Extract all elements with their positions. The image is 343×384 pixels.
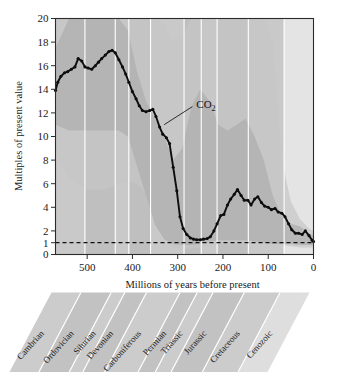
data-point (297, 232, 300, 235)
y-tick-label: 4 (43, 201, 49, 213)
data-point (97, 61, 100, 64)
x-tick-label: 0 (311, 261, 317, 273)
data-point (73, 65, 76, 68)
data-point (138, 104, 141, 107)
data-point (301, 233, 304, 236)
data-point (182, 227, 185, 230)
data-point (206, 237, 209, 240)
data-point (127, 81, 130, 84)
data-point (100, 57, 103, 60)
x-axis-title: Millions of years before present (125, 279, 259, 290)
data-point (202, 238, 205, 241)
data-point (277, 210, 280, 213)
y-tick-label: 10 (38, 130, 50, 142)
data-point (83, 65, 86, 68)
data-point (158, 126, 161, 129)
data-point (172, 166, 175, 169)
data-point (233, 193, 236, 196)
y-tick-label: 1 (43, 237, 49, 249)
data-point (226, 203, 229, 206)
data-point (283, 215, 286, 218)
data-point (80, 59, 83, 62)
data-point (219, 214, 222, 217)
data-point (121, 65, 124, 68)
data-point (273, 207, 276, 210)
data-point (66, 70, 69, 73)
data-point (294, 232, 297, 235)
data-point (240, 194, 243, 197)
data-point (246, 199, 249, 202)
x-tick-label: 300 (169, 261, 186, 273)
data-point (267, 206, 270, 209)
data-point (195, 238, 198, 241)
y-axis-title: Multiples of present value (13, 81, 24, 191)
data-point (189, 236, 192, 239)
data-point (104, 54, 107, 57)
data-point (236, 188, 239, 191)
data-point (168, 142, 171, 145)
data-point (161, 133, 164, 136)
data-point (199, 238, 202, 241)
data-point (107, 50, 110, 53)
data-point (260, 201, 263, 204)
data-point (165, 136, 168, 139)
data-point (243, 199, 246, 202)
data-point (229, 197, 232, 200)
data-point (94, 64, 97, 67)
data-point (87, 67, 90, 70)
y-tick-label: 6 (43, 178, 49, 190)
y-tick-label: 18 (38, 36, 50, 48)
data-point (290, 228, 293, 231)
y-tick-label: 20 (38, 12, 50, 24)
data-point (56, 81, 59, 84)
data-point (154, 115, 157, 118)
plot-area: CO2 (54, 19, 315, 255)
y-tick-label: 14 (38, 83, 50, 95)
data-point (175, 189, 178, 192)
y-tick-label: 16 (38, 60, 50, 72)
data-point (192, 238, 195, 241)
x-tick-label: 100 (260, 261, 277, 273)
data-point (178, 215, 181, 218)
data-point (59, 75, 62, 78)
data-point (90, 68, 93, 71)
data-point (131, 90, 134, 93)
data-point (287, 222, 290, 225)
data-point (270, 208, 273, 211)
y-tick-label: 0 (43, 248, 49, 260)
data-point (304, 229, 307, 232)
data-point (280, 212, 283, 215)
data-point (63, 71, 66, 74)
chart-canvas: CO2 012468101214161820 5004003002001000 … (0, 0, 343, 384)
x-tick-label: 400 (124, 261, 141, 273)
y-tick-label: 12 (38, 107, 49, 119)
y-tick-label: 2 (43, 225, 49, 237)
data-point (148, 109, 151, 112)
data-point (114, 51, 117, 54)
data-point (185, 233, 188, 236)
data-point (151, 108, 154, 111)
data-point (209, 235, 212, 238)
data-point (249, 203, 252, 206)
data-point (77, 57, 80, 60)
data-point (70, 68, 73, 71)
data-point (144, 110, 147, 113)
data-point (124, 72, 127, 75)
data-point (135, 97, 138, 100)
x-tick-label: 500 (79, 261, 96, 273)
data-point (216, 222, 219, 225)
data-point (263, 205, 266, 208)
data-point (141, 109, 144, 112)
x-tick-label: 200 (215, 261, 232, 273)
data-point (222, 213, 225, 216)
data-point (117, 58, 120, 61)
data-point (256, 195, 259, 198)
data-point (111, 49, 114, 52)
data-point (253, 197, 256, 200)
data-point (307, 234, 310, 237)
data-point (212, 229, 215, 232)
y-tick-label: 8 (43, 154, 49, 166)
co2-geologic-time-figure: CO2 012468101214161820 5004003002001000 … (0, 0, 343, 384)
